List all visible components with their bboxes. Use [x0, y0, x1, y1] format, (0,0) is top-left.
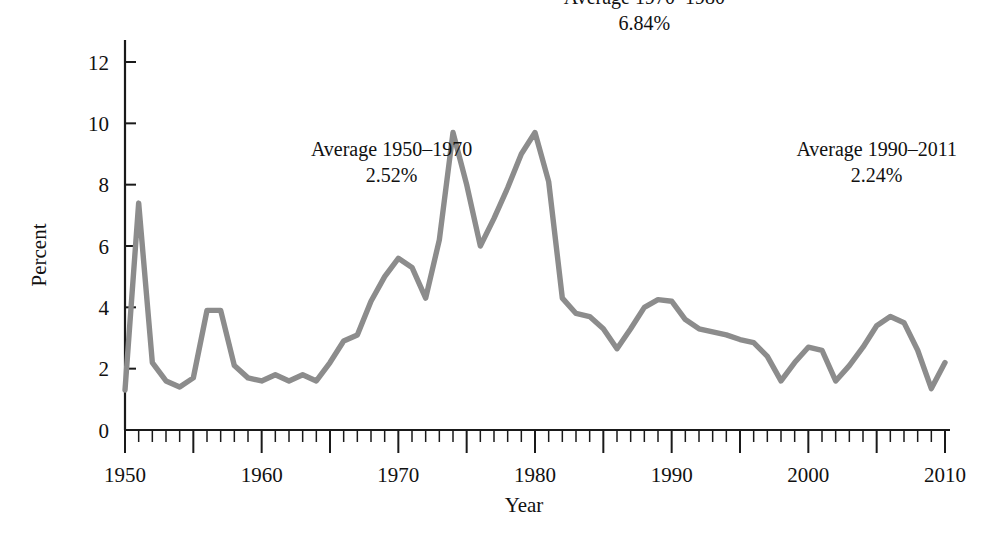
y-tick-label: 10: [88, 112, 109, 136]
annotation-avg-1950-1970-value: 2.52%: [366, 164, 418, 186]
data-series-group: [125, 133, 945, 391]
y-axis-title: Percent: [27, 223, 51, 286]
x-tick-label: 1970: [377, 463, 419, 487]
x-axis-title: Year: [505, 493, 544, 517]
annotation-avg-1990-2011-value: 2.24%: [851, 164, 903, 186]
y-tick-label: 0: [99, 419, 110, 443]
x-tick-label: 2010: [924, 463, 966, 487]
inflation-line-chart-figure: 024681012 1950196019701980199020002010 P…: [0, 0, 994, 535]
annotation-avg-1950-1970-title: Average 1950–1970: [311, 138, 472, 161]
y-tick-label: 4: [99, 296, 110, 320]
y-tick-label: 12: [88, 51, 109, 75]
annotation-avg-1970-1980-title: Average 1970–1980: [564, 0, 725, 9]
annotation-avg-1990-2011-title: Average 1990–2011: [796, 138, 957, 161]
x-tick-label: 1990: [651, 463, 693, 487]
inflation-rate-line: [125, 133, 945, 391]
x-tick-label: 1960: [241, 463, 283, 487]
chart-canvas: 024681012 1950196019701980199020002010 P…: [0, 0, 994, 535]
y-tick-label: 2: [99, 357, 110, 381]
x-tick-label: 1980: [514, 463, 556, 487]
x-tick-label: 1950: [104, 463, 146, 487]
x-axis-tick-labels: 1950196019701980199020002010: [104, 463, 966, 487]
annotations-group: Average 1950–1970 2.52% Average 1970–198…: [311, 0, 957, 186]
annotation-avg-1970-1980-value: 6.84%: [618, 12, 670, 34]
y-tick-label: 6: [99, 235, 110, 259]
axes-spines: [125, 40, 950, 430]
y-tick-label: 8: [99, 173, 110, 197]
x-tick-label: 2000: [787, 463, 829, 487]
y-axis-tick-labels: 024681012: [88, 51, 110, 443]
